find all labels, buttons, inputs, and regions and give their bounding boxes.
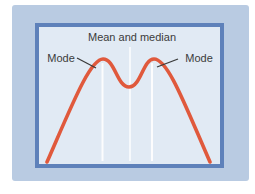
figure-card: Mean and median Mode Mode	[12, 5, 249, 181]
plot-panel: Mean and median Mode Mode	[35, 23, 224, 168]
figure: Mean and median Mode Mode	[0, 0, 255, 194]
left-mode-label: Mode	[47, 52, 75, 64]
bimodal-curve	[47, 59, 210, 162]
right-mode-label: Mode	[185, 52, 213, 64]
left-mode-leader-line	[77, 58, 96, 68]
mean-median-label: Mean and median	[88, 31, 176, 43]
distribution-plot: Mean and median Mode Mode	[39, 27, 220, 164]
